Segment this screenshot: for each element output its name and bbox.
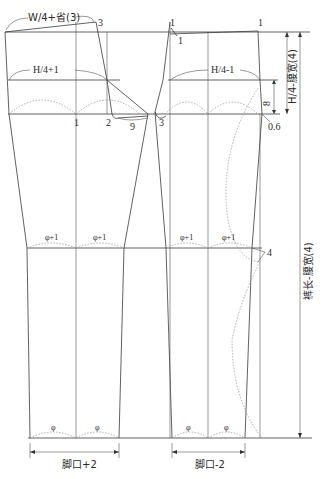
- label-hem-front-right: φ: [95, 423, 100, 432]
- label-knee-back-right: φ+1: [222, 233, 235, 242]
- front-hem-arc-left: [30, 432, 76, 438]
- label-front-hem: 脚口+2: [62, 458, 97, 470]
- label-mark-3-back: 3: [159, 117, 164, 128]
- back-hem-arc-right: [208, 432, 245, 438]
- label-hem-front-left: φ: [51, 423, 56, 432]
- pattern-diagram: W/4+省(3) 3 H/4+1 1 2 9 3 1 1 1 H/4-1 0.6…: [0, 0, 323, 479]
- label-knee-front-right: φ+1: [93, 233, 106, 242]
- front-hip-arc-right: [76, 100, 140, 114]
- label-mark-06: 0.6: [268, 121, 281, 132]
- label-hem-back-left: φ: [186, 423, 191, 432]
- front-side-seam-mid: [9, 114, 27, 248]
- back-hip-arc-left: [165, 102, 208, 114]
- front-waist-bracket-left: [6, 18, 28, 30]
- front-crotch-diagonal: [107, 80, 148, 114]
- label-waist-depth: H/4-腰宽(4): [286, 49, 298, 104]
- label-back-hip: H/4-1: [211, 64, 234, 75]
- front-knee-arc-right: [76, 243, 124, 248]
- mark-9-bracket: [118, 118, 148, 120]
- label-back-hem: 脚口-2: [195, 458, 225, 470]
- back-side-seam: [245, 31, 262, 438]
- front-side-seam-low: [27, 248, 30, 438]
- front-crotch-curve: [112, 114, 148, 119]
- back-hip-arc-right: [208, 102, 258, 114]
- front-side-seam-top: [5, 32, 9, 114]
- mark-4-bracket: [252, 248, 265, 262]
- back-hem-arc-left: [172, 432, 208, 438]
- front-knee-arc-left: [27, 243, 76, 248]
- label-mark-1-back-top-left: 1: [170, 17, 175, 28]
- back-knee-arc-left: [166, 243, 208, 248]
- label-hem-back-right: φ: [224, 423, 229, 432]
- back-inseam-low: [166, 248, 172, 438]
- label-mark-9: 9: [130, 121, 135, 132]
- front-hem-arc-right: [76, 432, 119, 438]
- front-inseam-low: [119, 248, 124, 438]
- back-knee-arc-right: [208, 243, 252, 248]
- back-hip-bracket-left: [170, 70, 208, 80]
- front-hip-arc-left: [9, 100, 76, 114]
- label-mark-1-back-inner: 1: [178, 35, 183, 46]
- label-mark-1-back-top-right: 1: [258, 17, 263, 28]
- label-mark-4: 4: [267, 247, 272, 258]
- back-crotch-dotted-curve: [226, 88, 262, 438]
- front-waist-slant: [5, 22, 96, 32]
- front-inseam-mid: [124, 114, 148, 248]
- back-inseam-mid: [155, 112, 166, 248]
- label-front-hip: H/4+1: [33, 64, 59, 75]
- back-waist-line: [170, 31, 258, 34]
- label-mark-8: 8: [261, 101, 272, 106]
- back-hip-bracket-right: [240, 70, 260, 80]
- label-knee-back-left: φ+1: [180, 233, 193, 242]
- label-mark-2: 2: [106, 117, 111, 128]
- label-mark-1-front: 1: [74, 117, 79, 128]
- label-front-waist: W/4+省(3): [28, 11, 80, 23]
- pattern-drawing: W/4+省(3) 3 H/4+1 1 2 9 3 1 1 1 H/4-1 0.6…: [0, 0, 323, 479]
- label-knee-front-left: φ+1: [45, 233, 58, 242]
- label-leg-length: 裤长-腰宽(4): [302, 242, 314, 300]
- label-dart-3: 3: [98, 17, 103, 28]
- front-hip-bracket-left: [9, 70, 30, 80]
- back-center-seam: [155, 22, 170, 112]
- front-hip-bracket-right: [75, 70, 107, 80]
